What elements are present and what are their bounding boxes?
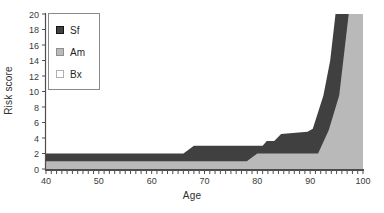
y-tick-label: 12 — [29, 72, 39, 82]
legend-item-bx: Bx — [56, 63, 99, 85]
x-tick-label: 80 — [252, 176, 262, 186]
y-axis-title: Risk score — [3, 56, 14, 126]
am-swatch-icon — [56, 48, 64, 56]
y-tick-label: 6 — [34, 118, 39, 128]
legend-item-sf: Sf — [56, 19, 99, 41]
legend: Sf Am Bx — [48, 13, 100, 90]
y-tick-label: 0 — [34, 165, 39, 175]
x-tick-label: 60 — [147, 176, 157, 186]
x-tick-label: 70 — [199, 176, 209, 186]
y-tick-label: 10 — [29, 87, 39, 97]
x-axis-title: Age — [0, 190, 384, 201]
y-tick-label: 8 — [34, 103, 39, 113]
x-tick-label: 40 — [41, 176, 51, 186]
y-tick-label: 16 — [29, 41, 39, 51]
legend-label-am: Am — [70, 47, 85, 58]
x-tick-label: 50 — [94, 176, 104, 186]
y-tick-label: 4 — [34, 134, 39, 144]
legend-label-sf: Sf — [70, 25, 79, 36]
y-tick-label: 14 — [29, 56, 39, 66]
legend-item-am: Am — [56, 41, 99, 63]
sf-swatch-icon — [56, 26, 64, 34]
y-tick-label: 18 — [29, 25, 39, 35]
y-tick-label: 20 — [29, 10, 39, 20]
y-tick-label: 2 — [34, 149, 39, 159]
risk-score-area-chart: 40506070809010002468101214161820 Risk sc… — [0, 0, 384, 213]
legend-label-bx: Bx — [70, 69, 82, 80]
x-tick-label: 90 — [305, 176, 315, 186]
bx-swatch-icon — [56, 70, 64, 78]
x-tick-label: 100 — [355, 176, 370, 186]
